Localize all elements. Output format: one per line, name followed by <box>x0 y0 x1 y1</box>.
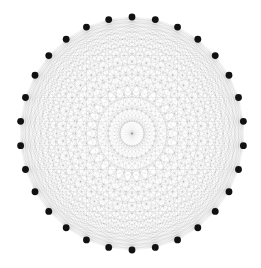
graph-node <box>83 237 90 244</box>
graph-node <box>63 224 70 231</box>
graph-node <box>212 208 219 215</box>
graph-node <box>17 118 24 125</box>
graph-node <box>174 237 181 244</box>
graph-node <box>45 52 52 59</box>
graph-node <box>105 244 112 251</box>
graph-node <box>22 94 29 101</box>
graph-node <box>226 188 233 195</box>
graph-node <box>240 118 247 125</box>
graph-node <box>194 224 201 231</box>
graph-node <box>235 166 242 173</box>
graph-node <box>226 72 233 79</box>
graph-node <box>129 247 136 254</box>
graph-node <box>235 94 242 101</box>
graph-node <box>194 36 201 43</box>
graph-node <box>152 244 159 251</box>
graph-node <box>174 24 181 31</box>
graph-node <box>105 16 112 23</box>
graph-node <box>17 142 24 149</box>
graph-node <box>212 52 219 59</box>
graph-node <box>45 208 52 215</box>
graph-node <box>63 36 70 43</box>
graph-node <box>152 16 159 23</box>
graph-node <box>83 24 90 31</box>
graph-node <box>22 166 29 173</box>
complete-graph-diagram <box>0 0 261 268</box>
graph-node <box>32 72 39 79</box>
graph-node <box>32 188 39 195</box>
graph-node <box>240 142 247 149</box>
graph-node <box>129 14 136 21</box>
